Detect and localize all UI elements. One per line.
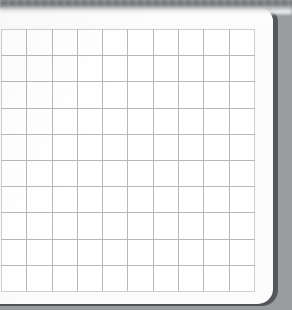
grid-cell[interactable] bbox=[52, 30, 77, 56]
grid-cell[interactable] bbox=[2, 108, 27, 134]
grid-cell[interactable] bbox=[153, 187, 178, 213]
grid-cell[interactable] bbox=[128, 239, 153, 265]
grid-cell[interactable] bbox=[153, 134, 178, 160]
grid-cell[interactable] bbox=[27, 265, 52, 291]
grid-cell[interactable] bbox=[179, 108, 204, 134]
grid-cell[interactable] bbox=[27, 239, 52, 265]
grid-cell[interactable] bbox=[179, 187, 204, 213]
grid-cell[interactable] bbox=[2, 134, 27, 160]
grid-cell[interactable] bbox=[103, 108, 128, 134]
grid-cell[interactable] bbox=[204, 134, 229, 160]
grid-cell[interactable] bbox=[204, 213, 229, 239]
grid-cell[interactable] bbox=[52, 187, 77, 213]
grid-cell[interactable] bbox=[229, 108, 254, 134]
grid-cell[interactable] bbox=[229, 30, 254, 56]
grid-cell[interactable] bbox=[128, 82, 153, 108]
grid-cell[interactable] bbox=[204, 265, 229, 291]
grid-cell[interactable] bbox=[204, 30, 229, 56]
grid-cell[interactable] bbox=[27, 213, 52, 239]
grid-cell[interactable] bbox=[128, 30, 153, 56]
grid-cell[interactable] bbox=[179, 265, 204, 291]
grid-cell[interactable] bbox=[128, 108, 153, 134]
grid-cell[interactable] bbox=[77, 56, 102, 82]
grid-cell[interactable] bbox=[204, 82, 229, 108]
grid-cell[interactable] bbox=[229, 82, 254, 108]
grid-cell[interactable] bbox=[103, 187, 128, 213]
grid-cell[interactable] bbox=[77, 134, 102, 160]
grid-cell[interactable] bbox=[77, 82, 102, 108]
grid-cell[interactable] bbox=[153, 82, 178, 108]
grid-cell[interactable] bbox=[179, 30, 204, 56]
grid-cell[interactable] bbox=[52, 82, 77, 108]
grid-cell[interactable] bbox=[52, 265, 77, 291]
grid-cell[interactable] bbox=[179, 160, 204, 186]
grid-cell[interactable] bbox=[103, 213, 128, 239]
grid-cell[interactable] bbox=[204, 108, 229, 134]
grid-cell[interactable] bbox=[153, 56, 178, 82]
grid-cell[interactable] bbox=[229, 265, 254, 291]
grid-cell[interactable] bbox=[229, 134, 254, 160]
grid-cell[interactable] bbox=[128, 187, 153, 213]
grid-cell[interactable] bbox=[52, 108, 77, 134]
grid-cell[interactable] bbox=[128, 134, 153, 160]
grid-cell[interactable] bbox=[229, 187, 254, 213]
grid-cell[interactable] bbox=[153, 108, 178, 134]
grid-cell[interactable] bbox=[128, 56, 153, 82]
grid-cell[interactable] bbox=[153, 213, 178, 239]
grid-cell[interactable] bbox=[52, 134, 77, 160]
grid-cell[interactable] bbox=[153, 239, 178, 265]
blank-grid[interactable] bbox=[1, 29, 255, 292]
grid-cell[interactable] bbox=[2, 82, 27, 108]
grid-cell[interactable] bbox=[128, 160, 153, 186]
grid-cell[interactable] bbox=[52, 213, 77, 239]
grid-cell[interactable] bbox=[77, 187, 102, 213]
grid-cell[interactable] bbox=[204, 187, 229, 213]
grid-cell[interactable] bbox=[27, 82, 52, 108]
grid-cell[interactable] bbox=[52, 56, 77, 82]
grid-cell[interactable] bbox=[103, 160, 128, 186]
grid-cell[interactable] bbox=[179, 239, 204, 265]
grid-container[interactable] bbox=[1, 29, 255, 292]
grid-cell[interactable] bbox=[103, 56, 128, 82]
grid-cell[interactable] bbox=[27, 187, 52, 213]
grid-cell[interactable] bbox=[52, 160, 77, 186]
grid-cell[interactable] bbox=[2, 187, 27, 213]
grid-cell[interactable] bbox=[2, 213, 27, 239]
grid-cell[interactable] bbox=[77, 160, 102, 186]
grid-cell[interactable] bbox=[77, 265, 102, 291]
grid-cell[interactable] bbox=[229, 239, 254, 265]
grid-cell[interactable] bbox=[128, 213, 153, 239]
grid-cell[interactable] bbox=[179, 213, 204, 239]
grid-cell[interactable] bbox=[2, 265, 27, 291]
grid-cell[interactable] bbox=[27, 30, 52, 56]
grid-cell[interactable] bbox=[77, 108, 102, 134]
grid-cell[interactable] bbox=[27, 56, 52, 82]
grid-cell[interactable] bbox=[77, 239, 102, 265]
grid-cell[interactable] bbox=[229, 56, 254, 82]
grid-cell[interactable] bbox=[77, 30, 102, 56]
grid-cell[interactable] bbox=[153, 30, 178, 56]
grid-cell[interactable] bbox=[77, 213, 102, 239]
grid-cell[interactable] bbox=[103, 30, 128, 56]
grid-cell[interactable] bbox=[2, 239, 27, 265]
grid-cell[interactable] bbox=[204, 239, 229, 265]
grid-cell[interactable] bbox=[153, 265, 178, 291]
grid-cell[interactable] bbox=[103, 239, 128, 265]
grid-cell[interactable] bbox=[179, 82, 204, 108]
grid-cell[interactable] bbox=[52, 239, 77, 265]
grid-cell[interactable] bbox=[153, 160, 178, 186]
grid-cell[interactable] bbox=[27, 160, 52, 186]
grid-cell[interactable] bbox=[103, 265, 128, 291]
grid-cell[interactable] bbox=[27, 134, 52, 160]
grid-cell[interactable] bbox=[204, 160, 229, 186]
grid-cell[interactable] bbox=[2, 160, 27, 186]
grid-cell[interactable] bbox=[179, 134, 204, 160]
grid-cell[interactable] bbox=[103, 82, 128, 108]
grid-cell[interactable] bbox=[229, 213, 254, 239]
grid-cell[interactable] bbox=[229, 160, 254, 186]
grid-cell[interactable] bbox=[128, 265, 153, 291]
grid-cell[interactable] bbox=[179, 56, 204, 82]
grid-cell[interactable] bbox=[2, 56, 27, 82]
grid-cell[interactable] bbox=[103, 134, 128, 160]
grid-cell[interactable] bbox=[204, 56, 229, 82]
